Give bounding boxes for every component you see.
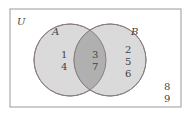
b-only-item: 5 <box>125 56 131 67</box>
intersection-item: 7 <box>92 61 98 72</box>
a-only-item: 1 <box>61 49 67 60</box>
b-only-item: 2 <box>125 44 131 55</box>
outside-item: 9 <box>164 93 170 104</box>
set-b-label: B <box>130 26 138 37</box>
outside-item: 8 <box>164 81 170 92</box>
a-only-item: 4 <box>61 61 67 72</box>
universe-label: U <box>17 16 26 27</box>
intersection-item: 3 <box>92 49 98 60</box>
set-a-label: A <box>51 26 59 37</box>
b-only-item: 6 <box>125 68 131 79</box>
venn-diagram: U A B 1 4 3 7 2 5 6 8 9 <box>0 0 186 114</box>
